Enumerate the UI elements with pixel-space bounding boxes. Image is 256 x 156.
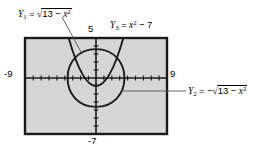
y2-radicand-minus: − <box>231 85 237 96</box>
y2-equals: = <box>199 85 205 96</box>
window-xmax-label: 9 <box>170 69 175 79</box>
window-ymin-label: -7 <box>88 136 96 146</box>
y1-subscript: 1 <box>23 13 26 20</box>
y3-constant: 7 <box>147 19 152 30</box>
graph-figure: Y1 = √13 − x2 Y3 = x2 − 7 Y2 = − √13 − x… <box>0 0 256 156</box>
y3-subscript: 3 <box>115 24 118 31</box>
y1-radical: √13 − x2 <box>37 8 72 20</box>
y3-equals: = <box>121 19 127 30</box>
label-y1-equation: Y1 = √13 − x2 <box>18 8 72 20</box>
y2-subscript: 2 <box>193 90 196 97</box>
y2-radical: √13 − x2 <box>213 85 248 97</box>
label-y3-equation: Y3 = x2 − 7 <box>110 20 152 31</box>
y2-radicand-exp: 2 <box>243 85 246 92</box>
y3-exp: 2 <box>133 19 136 26</box>
label-y2-equation: Y2 = − √13 − x2 <box>188 85 247 97</box>
window-ymax-label: 5 <box>88 24 93 34</box>
y1-radicand-minus: − <box>55 8 61 19</box>
y1-radicand-exp: 2 <box>67 8 70 15</box>
y1-radicand-lead: 13 <box>42 8 53 19</box>
window-xmin-label: -9 <box>4 69 12 79</box>
y2-radicand: 13 − x2 <box>217 85 248 97</box>
y2-radicand-lead: 13 <box>218 85 229 96</box>
y3-minus: − <box>139 19 145 30</box>
y1-equals: = <box>29 8 35 19</box>
y1-radicand: 13 − x2 <box>41 8 72 20</box>
